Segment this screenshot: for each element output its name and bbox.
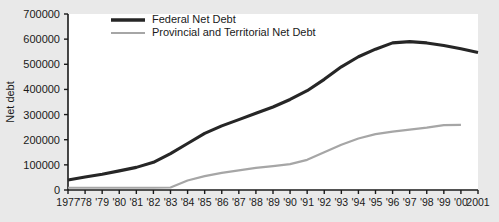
x-tick-label-1999: '99 [437,196,451,208]
legend-label-federal: Federal Net Debt [152,13,236,25]
plot-area-background [68,14,478,190]
x-tick-label-1997: '97 [403,196,417,208]
x-tick-label-2001: 2001 [466,196,490,208]
x-tick-label-1991: '91 [300,196,314,208]
chart-canvas: 0100000200000300000400000500000600000700… [0,0,499,222]
x-tick-label-1990: '90 [283,196,297,208]
x-tick-label-1995: '95 [369,196,383,208]
y-tick-label-600000: 600000 [23,33,60,45]
y-axis-title: Net debt [4,81,16,123]
y-tick-label-200000: 200000 [23,134,60,146]
y-tick-label-500000: 500000 [23,58,60,70]
x-tick-label-1981: '81 [129,196,143,208]
y-tick-label-700000: 700000 [23,8,60,20]
x-axis-tick-labels: 1977'78'79'80'81'82'83'84'85'86'87'88'89… [56,196,490,208]
x-tick-label-1988: '88 [249,196,263,208]
y-tick-label-400000: 400000 [23,83,60,95]
x-tick-label-1977: 1977 [56,196,80,208]
x-tick-label-1994: '94 [352,196,366,208]
y-tick-label-300000: 300000 [23,109,60,121]
x-tick-label-1998: '98 [420,196,434,208]
y-tick-label-0: 0 [54,184,60,196]
x-tick-label-1984: '84 [181,196,195,208]
net-debt-line-chart: 0100000200000300000400000500000600000700… [0,0,499,222]
x-tick-label-1985: '85 [198,196,212,208]
x-tick-label-1979: '79 [95,196,109,208]
x-tick-label-1987: '87 [232,196,246,208]
x-tick-label-1980: '80 [112,196,126,208]
x-tick-label-1989: '89 [266,196,280,208]
legend-label-provincial: Provincial and Territorial Net Debt [152,26,316,38]
x-tick-label-1986: '86 [215,196,229,208]
x-tick-label-1982: '82 [147,196,161,208]
y-tick-label-100000: 100000 [23,159,60,171]
x-tick-label-1983: '83 [164,196,178,208]
x-tick-label-1993: '93 [334,196,348,208]
x-tick-label-1978: '78 [78,196,92,208]
x-tick-label-1992: '92 [317,196,331,208]
x-tick-label-1996: '96 [386,196,400,208]
